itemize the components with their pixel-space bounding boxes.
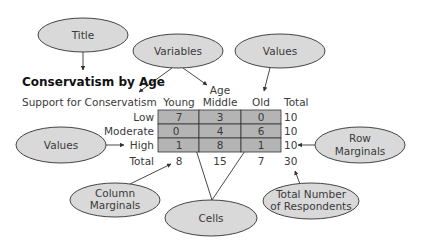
callout-label: Title: [71, 29, 95, 41]
callout-values-top: Values: [235, 34, 325, 68]
callout-label: Values: [263, 45, 297, 57]
callout-label: Variables: [154, 45, 202, 57]
column-total: 15: [213, 155, 226, 167]
callout-label: Column: [95, 187, 135, 199]
values-top-arrow: [264, 68, 270, 91]
row-total: 10: [284, 111, 297, 123]
callout-values-left: Values: [16, 127, 106, 163]
callout-label: Marginals: [90, 199, 141, 211]
row-total: 10: [284, 125, 297, 137]
table-title: Conservatism by Age: [22, 75, 165, 89]
variables-arrow-column: [183, 68, 207, 85]
row-label: High: [130, 139, 154, 151]
column-total: 7: [258, 155, 265, 167]
callout-row-marginals: Row Marginals: [315, 127, 405, 163]
cells-line-2: [212, 145, 249, 200]
row-variable-label: Support for Conservatism: [22, 96, 157, 108]
table-cell: 0: [258, 111, 265, 123]
callout-label: of Respondents: [270, 200, 351, 212]
table-cell: 1: [176, 139, 183, 151]
column-header-young: Young: [162, 96, 194, 108]
row-label: Low: [133, 111, 154, 123]
column-variable-label: Age: [210, 84, 230, 96]
callout-column-marginals: Column Marginals: [70, 183, 160, 217]
callout-label: Values: [44, 139, 78, 151]
table-cell: 3: [217, 111, 224, 123]
column-total: 8: [176, 155, 183, 167]
callout-variables: Variables: [133, 34, 223, 68]
callout-total-respondents: Total Number of Respondents: [263, 183, 359, 219]
row-label: Moderate: [104, 125, 154, 137]
callout-title: Title: [38, 18, 128, 52]
total-respondents-arrow: [295, 171, 300, 184]
callout-label: Marginals: [335, 145, 386, 157]
table-cell: 4: [217, 125, 224, 137]
column-header-total: Total: [283, 96, 309, 108]
callout-label: Total Number: [275, 188, 347, 200]
row-total: 10: [284, 139, 297, 151]
column-header-old: Old: [252, 96, 270, 108]
totals-row: Total 8 15 7 30: [128, 155, 297, 167]
callout-label: Cells: [198, 212, 223, 224]
callout-label: Row: [349, 132, 371, 144]
column-header-middle: Middle: [203, 96, 238, 108]
table-cell: 1: [258, 139, 265, 151]
callout-cells: Cells: [165, 200, 257, 236]
table-cell: 7: [176, 111, 183, 123]
column-marginals-arrow: [130, 164, 171, 184]
table-cell: 6: [258, 125, 265, 137]
total-row-label: Total: [128, 155, 154, 167]
grand-total: 30: [284, 155, 297, 167]
table-cell: 8: [217, 139, 224, 151]
contingency-table-diagram: Title Variables Values Values Row Margin…: [0, 0, 423, 248]
table-cell: 0: [173, 125, 180, 137]
